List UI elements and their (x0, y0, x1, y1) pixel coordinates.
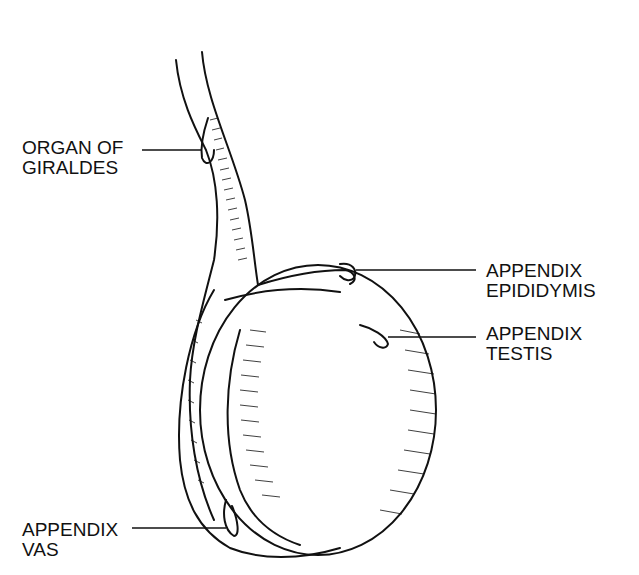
label-line: APPENDIX (486, 261, 596, 281)
anatomy-diagram: ORGAN OF GIRALDES APPENDIX EPIDIDYMIS AP… (0, 0, 639, 575)
label-organ-of-giraldes: ORGAN OF GIRALDES (22, 138, 123, 178)
label-line: GIRALDES (22, 158, 123, 178)
label-line: EPIDIDYMIS (486, 281, 596, 301)
label-line: ORGAN OF (22, 138, 123, 158)
label-line: VAS (22, 540, 118, 560)
epididymis-outline (179, 290, 340, 557)
label-appendix-testis: APPENDIX TESTIS (486, 324, 582, 364)
spermatic-cord (176, 60, 217, 520)
label-line: APPENDIX (22, 520, 118, 540)
testis-body (200, 265, 436, 555)
label-line: TESTIS (486, 344, 582, 364)
label-line: APPENDIX (486, 324, 582, 344)
label-appendix-vas: APPENDIX VAS (22, 520, 118, 560)
label-appendix-epididymis: APPENDIX EPIDIDYMIS (486, 261, 596, 301)
appendix-vas-shape (224, 500, 238, 536)
appendix-testis-shape (360, 325, 388, 348)
